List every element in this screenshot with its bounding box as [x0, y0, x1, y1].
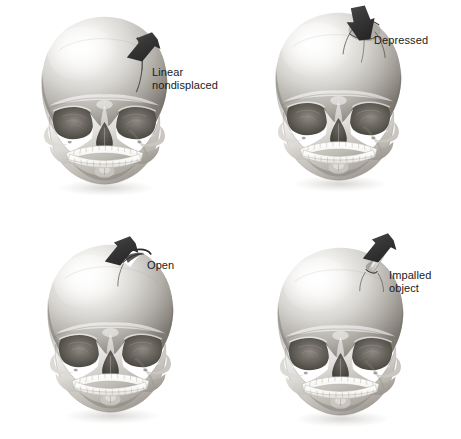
fracture-pointer-arrow-icon: [124, 28, 166, 70]
panel-linear-nondisplaced: Linear nondisplaced: [0, 0, 230, 219]
panel-open: Open: [0, 220, 230, 439]
fracture-pointer-arrow-icon: [360, 229, 402, 271]
panel-label-impalled-object: Impalled object: [389, 269, 431, 295]
panel-impalled-object: Impalled object: [231, 220, 461, 439]
panel-label-linear-nondisplaced: Linear nondisplaced: [152, 66, 218, 92]
panel-label-open: Open: [147, 259, 174, 272]
skull-fracture-figure: Linear nondisplaced Depressed Open: [0, 0, 461, 439]
panel-depressed: Depressed: [231, 0, 461, 219]
skull-illustration-depressed: [231, 0, 461, 219]
panel-label-depressed: Depressed: [374, 34, 428, 47]
skull-illustration-impalled: [231, 220, 461, 439]
fracture-pointer-arrow-icon: [102, 232, 144, 274]
skull-illustration-linear: [0, 0, 230, 219]
skull-illustration-open: [0, 220, 230, 439]
